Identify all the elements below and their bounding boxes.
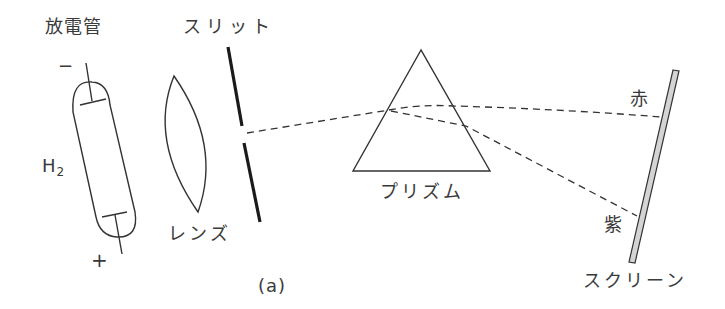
figure-caption: (a) — [258, 276, 286, 296]
gas-subscript: 2 — [57, 165, 66, 179]
incident-ray — [247, 110, 389, 133]
discharge-tube — [73, 63, 136, 254]
anode-plate — [102, 212, 127, 217]
slit — [228, 47, 260, 222]
red-ray — [389, 106, 661, 118]
red-label: 赤 — [630, 89, 649, 109]
slit-label: スリット — [183, 17, 275, 37]
plus-sign: + — [91, 250, 109, 270]
lens-label: レンズ — [168, 224, 231, 244]
violet-label: 紫 — [604, 215, 623, 235]
gas-label: H2 — [42, 156, 65, 182]
gas-symbol: H — [42, 155, 57, 176]
cathode-plate — [80, 99, 106, 105]
minus-sign: − — [58, 56, 74, 76]
prism-label: プリズム — [380, 182, 464, 202]
screen-label: スクリーン — [583, 271, 687, 291]
prism — [353, 50, 490, 171]
discharge-tube-label: 放電管 — [45, 17, 102, 37]
lens — [165, 76, 206, 212]
anode-lead — [115, 215, 122, 254]
